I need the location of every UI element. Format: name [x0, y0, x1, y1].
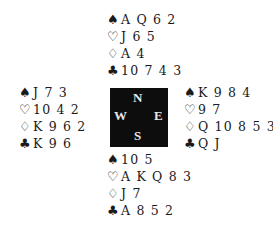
heart-icon: ♡ [107, 28, 120, 45]
south-clubs: ♣A 8 5 2 [107, 202, 192, 219]
north-hand: ♠A Q 6 2 ♡J 6 5 ♢A 4 ♣10 7 4 3 [107, 11, 182, 79]
east-hearts: ♡9 7 [184, 101, 273, 118]
club-icon: ♣ [107, 202, 120, 219]
compass-north: N [133, 90, 142, 106]
west-diamonds: ♢K 9 6 2 [19, 118, 87, 135]
south-hand: ♠10 5 ♡A K Q 8 3 ♢J 7 ♣A 8 5 2 [107, 151, 192, 219]
east-hand: ♠K 9 8 4 ♡9 7 ♢Q 10 8 5 3 ♣Q J [184, 84, 273, 152]
diamond-icon: ♢ [19, 118, 32, 135]
south-hearts: ♡A K Q 8 3 [107, 168, 192, 185]
spade-icon: ♠ [107, 151, 120, 168]
heart-icon: ♡ [19, 101, 32, 118]
north-diamonds: ♢A 4 [107, 45, 182, 62]
compass-west: W [114, 108, 127, 124]
east-diamonds: ♢Q 10 8 5 3 [184, 118, 273, 135]
spade-icon: ♠ [19, 84, 32, 101]
south-diamonds: ♢J 7 [107, 185, 192, 202]
compass-box: N W E S [110, 88, 168, 147]
club-icon: ♣ [19, 135, 32, 152]
club-icon: ♣ [184, 135, 197, 152]
north-hearts: ♡J 6 5 [107, 28, 182, 45]
west-spades: ♠J 7 3 [19, 84, 87, 101]
diamond-icon: ♢ [107, 45, 120, 62]
diamond-icon: ♢ [107, 185, 120, 202]
north-spades: ♠A Q 6 2 [107, 11, 182, 28]
west-hearts: ♡10 4 2 [19, 101, 87, 118]
east-clubs: ♣Q J [184, 135, 273, 152]
heart-icon: ♡ [107, 168, 120, 185]
compass-east: E [154, 108, 163, 124]
west-clubs: ♣K 9 6 [19, 135, 87, 152]
south-spades: ♠10 5 [107, 151, 192, 168]
spade-icon: ♠ [107, 11, 120, 28]
west-hand: ♠J 7 3 ♡10 4 2 ♢K 9 6 2 ♣K 9 6 [19, 84, 87, 152]
heart-icon: ♡ [184, 101, 197, 118]
club-icon: ♣ [107, 62, 120, 79]
diamond-icon: ♢ [184, 118, 197, 135]
north-clubs: ♣10 7 4 3 [107, 62, 182, 79]
east-spades: ♠K 9 8 4 [184, 84, 273, 101]
compass-south: S [134, 128, 141, 144]
spade-icon: ♠ [184, 84, 197, 101]
